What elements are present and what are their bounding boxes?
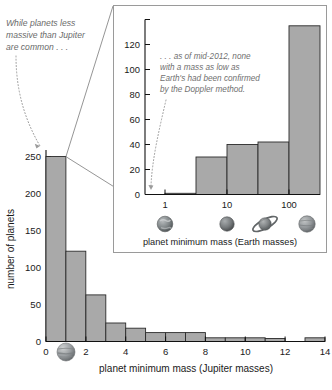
inset-annotation-line-1: . . . as of mid-2012, none bbox=[160, 52, 251, 61]
inset-annotation-line-4: by the Doppler method. bbox=[160, 85, 245, 94]
main-annotation-line-3: are common . . . bbox=[6, 42, 68, 52]
main-bar-1-2 bbox=[66, 251, 86, 341]
inset-ytick-60: 60 bbox=[130, 114, 140, 125]
main-annotation-line-1: While planets less bbox=[6, 18, 76, 28]
main-ytick-200: 200 bbox=[25, 188, 41, 199]
main-xtick-8: 8 bbox=[203, 346, 208, 357]
main-xtick-12: 12 bbox=[280, 346, 291, 357]
inset-ytick-0: 0 bbox=[135, 189, 140, 200]
main-bar-2-3 bbox=[86, 295, 106, 342]
jupiter-icon bbox=[57, 343, 75, 361]
inset-ytick-80: 80 bbox=[130, 89, 140, 100]
inset-ytick-100: 100 bbox=[124, 64, 140, 75]
main-xtick-6: 6 bbox=[163, 346, 168, 357]
inset-ytick-120: 120 bbox=[124, 39, 140, 50]
main-ytick-150: 150 bbox=[25, 225, 41, 236]
main-bar-6-7 bbox=[166, 333, 186, 342]
inset-bar-5 bbox=[289, 26, 320, 195]
main-ytick-250: 250 bbox=[25, 151, 41, 162]
main-ytick-0: 0 bbox=[36, 336, 41, 347]
main-ytick-50: 50 bbox=[30, 299, 41, 310]
inset-annotation-line-2: with a mass as low as bbox=[160, 63, 240, 72]
inset-ytick-20: 20 bbox=[130, 164, 140, 175]
main-bar-9-10 bbox=[225, 338, 245, 342]
inset-xtick-10: 10 bbox=[222, 199, 232, 210]
main-y-axis-title: number of planets bbox=[5, 209, 16, 289]
main-bar-10-11 bbox=[245, 338, 265, 342]
main-xtick-0: 0 bbox=[43, 346, 48, 357]
inset-bar-3 bbox=[227, 145, 258, 195]
inset-bar-4 bbox=[258, 142, 289, 195]
main-bar-7-8 bbox=[186, 333, 206, 342]
main-bar-13-14 bbox=[305, 338, 325, 342]
inset-chart-panel: . . . as of mid-2012, none with a mass a… bbox=[114, 6, 327, 253]
jupiter-icon-inset bbox=[299, 216, 315, 232]
inset-xtick-100: 100 bbox=[281, 199, 297, 210]
earth-icon bbox=[157, 216, 173, 232]
main-bar-3-4 bbox=[106, 323, 126, 342]
main-x-axis-title: planet minimum mass (Jupiter masses) bbox=[99, 363, 273, 374]
main-bar-0-1 bbox=[46, 157, 66, 342]
inset-bar-2 bbox=[196, 157, 227, 195]
main-bar-5-6 bbox=[146, 333, 166, 342]
figure-exoplanet-mass-histogram: While planets less massive than Jupiter … bbox=[0, 0, 332, 390]
inset-x-axis-title: planet minimum mass (Earth masses) bbox=[143, 237, 297, 247]
main-bar-8-9 bbox=[205, 338, 225, 342]
inset-ytick-40: 40 bbox=[130, 139, 140, 150]
main-xtick-10: 10 bbox=[240, 346, 251, 357]
inset-xtick-1: 1 bbox=[162, 199, 167, 210]
main-xtick-14: 14 bbox=[320, 346, 331, 357]
neptune-icon bbox=[220, 217, 234, 231]
main-annotation-line-2: massive than Jupiter bbox=[6, 30, 86, 40]
main-xtick-4: 4 bbox=[123, 346, 129, 357]
main-bar-4-5 bbox=[126, 328, 146, 341]
main-ytick-100: 100 bbox=[25, 262, 41, 273]
inset-annotation-line-3: Earth's had been confirmed bbox=[160, 74, 260, 83]
main-xtick-2: 2 bbox=[83, 346, 88, 357]
